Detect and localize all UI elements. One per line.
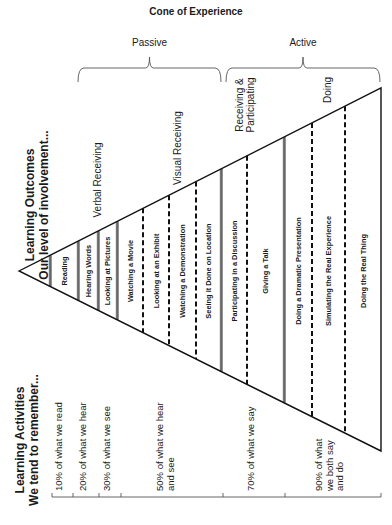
section-label: Visual Receiving (172, 111, 183, 185)
retention-axis: 10% of what we read20% of what we hear30… (52, 402, 381, 497)
activity-label: Reading (60, 256, 69, 286)
section-label: Doing (322, 77, 333, 103)
bracket-label: Passive (132, 37, 167, 48)
side-titles: Learning Outcomes Our level of involveme… (13, 130, 51, 506)
retention-label: and do (334, 462, 345, 491)
bracket-group: PassiveActive (78, 37, 380, 82)
section-label: Verbal Receiving (92, 142, 103, 217)
retention-label: and see (165, 457, 176, 491)
bracket-passive (78, 57, 221, 82)
retention-label: 20% of what we hear (77, 402, 88, 491)
activity-label: Giving a Talk (261, 247, 270, 293)
retention-label: 10% of what we read (53, 402, 64, 491)
retention-label: 50% of what we hear (154, 402, 165, 491)
activity-label: Participating in a Discussion (230, 220, 239, 322)
activities-title: Learning Activities (13, 386, 27, 493)
bracket-label: Active (289, 37, 317, 48)
activity-label: Hearing Words (84, 245, 93, 297)
activities-subtitle: We tend to remember... (27, 374, 41, 506)
activity-label: Looking at an Exhibit (152, 233, 161, 308)
activity-label: Watching a Demonstration (178, 224, 187, 318)
retention-label: 30% of what we see (101, 406, 112, 491)
activity-label: Doing a Dramatic Presentation (294, 217, 303, 325)
activity-label: Watching a Movie (126, 240, 135, 302)
activity-label: Looking at Pictures (103, 237, 112, 306)
retention-label: 70% of what we say (245, 406, 256, 491)
diagram-title: Cone of Experience (149, 6, 243, 17)
activity-label: Doing the Real Thing (359, 234, 368, 308)
retention-label: 90% of what (313, 438, 324, 491)
section-label: Participating (245, 77, 256, 132)
section-labels: Verbal ReceivingVisual ReceivingReceivin… (92, 77, 333, 218)
activity-labels: ReadingHearing WordsLooking at PicturesW… (60, 216, 368, 326)
activity-label: Seeing it Done on Location (204, 223, 213, 319)
section-label: Receiving & (234, 78, 245, 132)
retention-label: we both say (324, 440, 335, 492)
cone-of-experience-diagram: Cone of Experience PassiveActive Learnin… (0, 0, 392, 525)
outcomes-title: Learning Outcomes (23, 148, 37, 261)
activity-label: Simulating the Real Experience (324, 216, 333, 326)
